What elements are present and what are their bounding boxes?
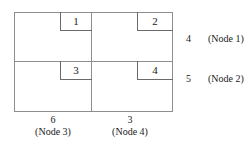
- block-cell-3-label: 3: [60, 61, 92, 80]
- block-cell-3: 3: [60, 61, 92, 80]
- block-cell-4: 4: [137, 61, 173, 80]
- column-label-node-4-name: (Node 4): [90, 126, 170, 138]
- row-label-node-2: 5 (Node 2): [186, 74, 244, 84]
- column-label-node-4: 3 (Node 4): [90, 114, 170, 138]
- outer-frame-left-edge: [14, 12, 15, 112]
- block-cell-1-label: 1: [60, 12, 92, 31]
- outer-frame-bottom-edge: [14, 111, 173, 112]
- block-cell-2: 2: [137, 12, 173, 31]
- column-label-node-3-value: 6: [13, 114, 93, 126]
- block-cell-4-label: 4: [137, 61, 173, 80]
- block-cell-2-label: 2: [137, 12, 173, 31]
- block-cell-1: 1: [60, 12, 92, 31]
- slicing-floorplan-diagram: 1 2 3 4 4 (Node 1) 5 (Node 2) 6 (Node 3)…: [0, 0, 251, 144]
- row-label-node-2-name: (Node 2): [208, 74, 244, 84]
- row-label-node-1-value: 4: [186, 34, 198, 44]
- column-label-node-3: 6 (Node 3): [13, 114, 93, 138]
- column-label-node-4-value: 3: [90, 114, 170, 126]
- row-label-node-1: 4 (Node 1): [186, 34, 244, 44]
- row-label-node-2-value: 5: [186, 74, 198, 84]
- row-label-node-1-name: (Node 1): [208, 34, 244, 44]
- column-label-node-3-name: (Node 3): [13, 126, 93, 138]
